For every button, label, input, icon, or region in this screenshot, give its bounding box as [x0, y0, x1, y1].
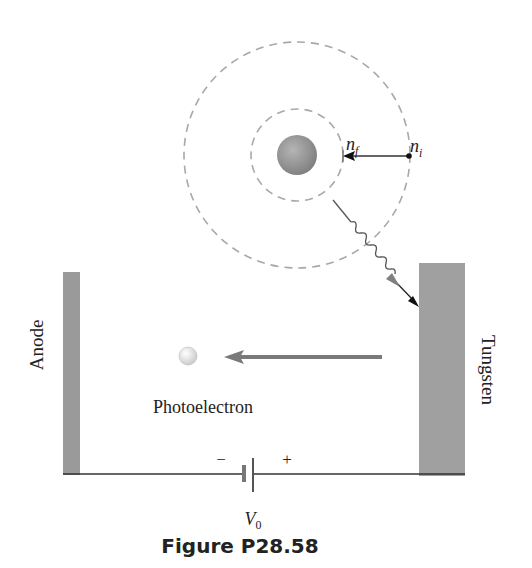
n-final-symbol: n — [346, 134, 355, 154]
battery-positive-plate — [252, 458, 254, 492]
diagram-canvas — [0, 0, 532, 568]
photon-gray-arrowhead — [386, 273, 400, 287]
photoelectron-label: Photoelectron — [153, 397, 253, 418]
plus-sign: + — [282, 450, 292, 470]
anode-plate — [63, 272, 80, 475]
voltage-symbol: V — [245, 509, 256, 529]
battery — [242, 458, 254, 492]
minus-sign: − — [216, 450, 226, 470]
voltage-label: V0 — [245, 509, 262, 534]
photoelectron — [179, 347, 197, 365]
tungsten-label: Tungsten — [477, 335, 499, 405]
photoelectron-arrow — [224, 350, 382, 364]
n-initial-subscript: i — [419, 146, 422, 160]
battery-negative-plate — [242, 465, 246, 482]
photon-black-arrowhead — [408, 296, 419, 307]
photon-path — [333, 200, 419, 307]
n-initial-label: ni — [410, 136, 422, 161]
tungsten-plate — [419, 263, 465, 476]
voltage-subscript: 0 — [256, 518, 262, 532]
nucleus — [277, 135, 317, 175]
n-final-subscript: f — [355, 144, 358, 158]
n-final-label: nf — [346, 134, 358, 159]
figure-caption: Figure P28.58 — [161, 534, 318, 558]
photoelectric-figure: Anode Tungsten Photoelectron − + V0 nf n… — [0, 0, 532, 568]
n-initial-symbol: n — [410, 136, 419, 156]
anode-label: Anode — [26, 320, 48, 371]
